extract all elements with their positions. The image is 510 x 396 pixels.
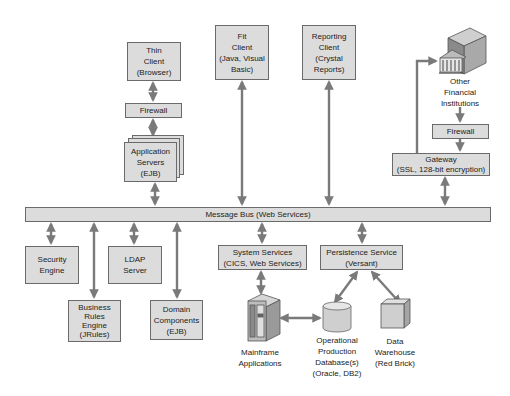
node-label: Reporting: [312, 31, 347, 42]
arrow-persistence-warehouse: [372, 272, 400, 303]
node-label: System Services: [233, 247, 293, 258]
node-label: Production: [300, 346, 374, 357]
node-label: (Versant): [345, 258, 377, 269]
message-bus: Message Bus (Web Services): [25, 207, 491, 222]
node-label: Fit: [238, 31, 247, 42]
system-services-node: System Services (CICS, Web Services): [218, 245, 307, 270]
business-rules-engine-node: Business Rules Engine (JRules): [68, 300, 121, 342]
node-label: Application: [131, 146, 170, 157]
node-label: (Red Brick): [365, 358, 425, 369]
node-label: Applications: [228, 358, 292, 369]
arrow-persistence-database: [335, 272, 357, 302]
node-label: Mainframe: [228, 347, 292, 358]
ldap-server-node: LDAP Server: [108, 246, 162, 284]
message-bus-label: Message Bus (Web Services): [205, 209, 310, 220]
node-label: Client: [232, 42, 252, 53]
node-label: Business: [78, 303, 110, 312]
firewall-left-node: Firewall: [125, 103, 182, 118]
node-label: Firewall: [447, 126, 475, 137]
node-label: (EJB): [167, 326, 187, 337]
thin-client-node: Thin Client (Browser): [127, 42, 181, 81]
node-label: Client: [319, 42, 339, 53]
node-label: Engine: [40, 265, 65, 276]
node-label: Data: [365, 336, 425, 347]
domain-components-node: Domain Components (EJB): [150, 300, 203, 340]
node-label: Thin: [146, 45, 162, 56]
data-warehouse-label: Data Warehouse (Red Brick): [365, 336, 425, 369]
node-label: Institutions: [425, 98, 495, 109]
node-label: Basic): [231, 64, 253, 75]
firewall-right-node: Firewall: [432, 124, 489, 139]
node-label: Other: [425, 76, 495, 87]
operational-database-label: Operational Production Database(s) (Orac…: [300, 335, 374, 379]
node-label: Server: [123, 265, 147, 276]
node-label: Persistence Service: [326, 247, 397, 258]
node-label: LDAP: [125, 254, 146, 265]
mainframe-server-icon: [248, 294, 280, 341]
node-label: (SSL, 128-bit encryption): [397, 165, 486, 175]
node-label: Financial: [425, 87, 495, 98]
fit-client-node: Fit Client (Java, Visual Basic): [215, 25, 269, 80]
node-label: Engine: [82, 321, 107, 330]
node-label: Operational: [300, 335, 374, 346]
node-label: Firewall: [140, 105, 168, 116]
other-financial-institutions-label: Other Financial Institutions: [425, 76, 495, 109]
node-label: (Java, Visual: [219, 53, 265, 64]
security-engine-node: Security Engine: [25, 246, 79, 284]
node-label: Security: [38, 254, 67, 265]
reporting-client-node: Reporting Client (Crystal Reports): [302, 25, 356, 80]
persistence-service-node: Persistence Service (Versant): [320, 245, 403, 270]
node-label: (JRules): [80, 330, 110, 339]
database-cylinder-icon: [323, 302, 351, 332]
node-label: Servers: [137, 157, 165, 168]
node-label: (EJB): [141, 168, 161, 179]
app-servers-node: Application Servers (EJB): [124, 142, 177, 182]
node-label: (Oracle, DB2): [300, 368, 374, 379]
node-label: Components: [154, 315, 199, 326]
node-label: Rules: [84, 312, 104, 321]
node-label: Domain: [163, 304, 191, 315]
bank-building-icon: [439, 28, 486, 74]
node-label: Reports): [314, 64, 345, 75]
node-label: (Crystal: [315, 53, 343, 64]
data-cube-icon: [381, 299, 410, 328]
node-label: (Browser): [137, 67, 172, 78]
node-label: (CICS, Web Services): [223, 258, 301, 269]
node-label: Database(s): [300, 357, 374, 368]
gateway-node: Gateway (SSL, 128-bit encryption): [392, 153, 490, 176]
mainframe-applications-label: Mainframe Applications: [228, 347, 292, 369]
node-label: Warehouse: [365, 347, 425, 358]
node-label: Gateway: [425, 155, 457, 165]
node-label: Client: [144, 56, 164, 67]
